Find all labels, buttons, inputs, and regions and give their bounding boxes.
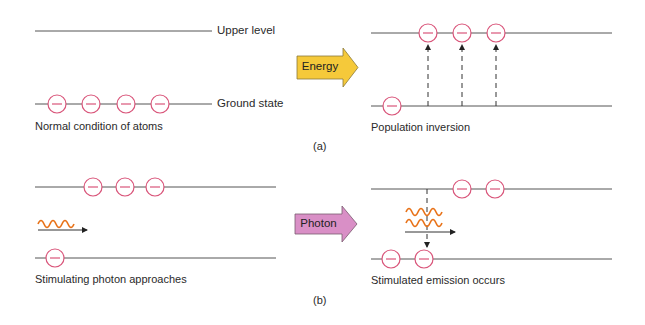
panel-b-label: (b) bbox=[313, 295, 326, 306]
panel-b-right bbox=[371, 180, 612, 268]
electron-icon bbox=[487, 24, 505, 42]
panel-b-left bbox=[35, 178, 276, 267]
electron-icon bbox=[117, 95, 135, 113]
electron-icon bbox=[84, 178, 102, 196]
upper-level-label: Upper level bbox=[217, 25, 275, 37]
electron-icon bbox=[48, 95, 66, 113]
electron-icon bbox=[382, 250, 400, 268]
caption-population-inversion: Population inversion bbox=[371, 122, 470, 133]
panel-a-left bbox=[35, 31, 212, 113]
ground-state-label: Ground state bbox=[217, 98, 283, 110]
electron-icon bbox=[453, 24, 471, 42]
caption-stimulating-photon: Stimulating photon approaches bbox=[35, 274, 187, 285]
electron-icon bbox=[46, 249, 64, 267]
photon-wave-icon bbox=[406, 209, 442, 216]
electron-icon bbox=[116, 178, 134, 196]
energy-arrow-label: Energy bbox=[297, 61, 343, 73]
photon-wave-icon bbox=[406, 220, 442, 227]
electron-icon bbox=[82, 95, 100, 113]
electron-icon bbox=[415, 250, 433, 268]
electron-icon bbox=[383, 97, 401, 115]
photon-wave-icon bbox=[38, 221, 74, 228]
electron-icon bbox=[486, 180, 504, 198]
electron-icon bbox=[151, 95, 169, 113]
panel-a-right bbox=[371, 24, 612, 115]
electron-icon bbox=[146, 178, 164, 196]
caption-normal-condition: Normal condition of atoms bbox=[35, 121, 163, 132]
electron-icon bbox=[453, 180, 471, 198]
caption-stimulated-emission: Stimulated emission occurs bbox=[371, 275, 505, 286]
photon-arrow-label: Photon bbox=[295, 218, 342, 230]
panel-a-label: (a) bbox=[313, 141, 326, 152]
electron-icon bbox=[419, 24, 437, 42]
